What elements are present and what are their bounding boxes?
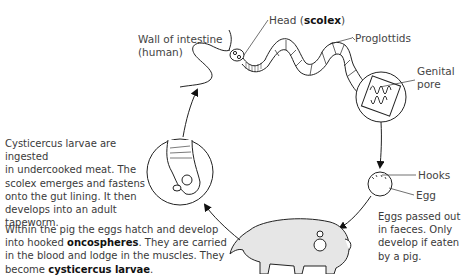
proglottid-magnified [356, 72, 406, 122]
label-hooks: Hooks [418, 169, 450, 182]
note-larvae-ingested: Cysticercus larvae are ingested in under… [5, 137, 155, 229]
tapeworm-adult [230, 39, 370, 96]
arrow-proglottid-to-egg [380, 122, 381, 167]
note-pig-stage: Within the pig the eggs hatch and develo… [5, 223, 230, 276]
note-eggs-passed: Eggs passed out in faeces. Only develop … [378, 210, 470, 263]
pig [230, 219, 351, 274]
label-head-scolex: Head (scolex) [269, 14, 345, 27]
cysticercus-larva-magnified [147, 139, 213, 205]
arrow-egg-to-pig [340, 196, 371, 228]
label-wall-of-intestine: Wall of intestine (human) [138, 33, 223, 59]
scolex-head [230, 49, 244, 61]
label-genital-pore: Genital pore [417, 65, 455, 91]
label-proglottids: Proglottids [355, 32, 411, 45]
label-egg: Egg [416, 189, 436, 202]
arrow-larva-to-intestine [183, 90, 197, 137]
egg [368, 172, 392, 196]
